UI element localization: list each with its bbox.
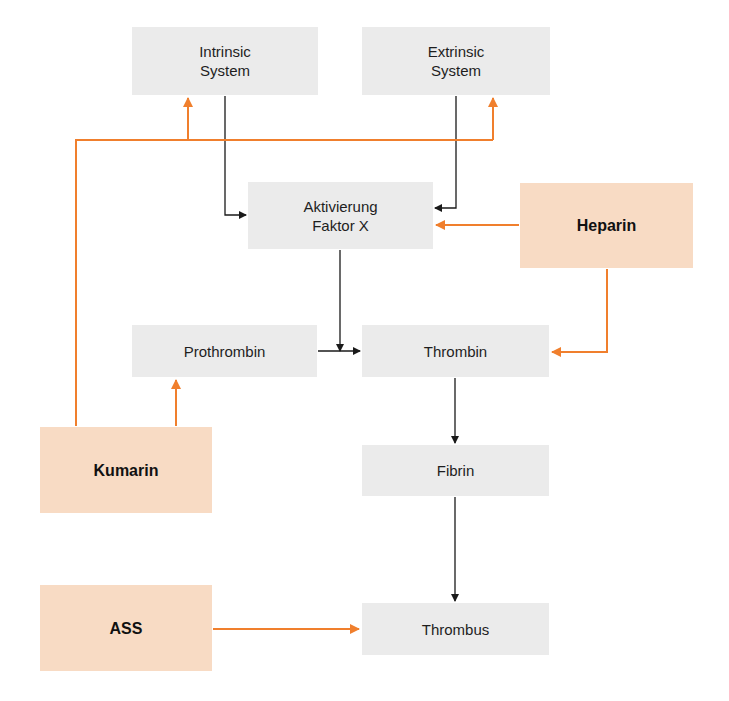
- node-label: Kumarin: [94, 461, 159, 480]
- node-label: ASS: [110, 619, 143, 638]
- node-fibrin: Fibrin: [362, 445, 549, 496]
- node-label: Prothrombin: [184, 342, 266, 361]
- node-ass: ASS: [40, 585, 212, 671]
- node-label: Intrinsic System: [199, 42, 251, 80]
- node-heparin: Heparin: [520, 183, 693, 268]
- edge-extrinsic-faktor-x: [435, 96, 456, 208]
- node-label: Aktivierung Faktor X: [303, 197, 377, 235]
- node-prothrombin: Prothrombin: [132, 325, 317, 377]
- node-label: Extrinsic System: [428, 42, 485, 80]
- node-thrombus: Thrombus: [362, 603, 549, 655]
- node-label: Heparin: [577, 216, 637, 235]
- node-kumarin: Kumarin: [40, 427, 212, 513]
- node-label: Fibrin: [437, 461, 475, 480]
- node-extrinsic-system: Extrinsic System: [362, 27, 550, 95]
- edge-heparin-thrombin: [552, 269, 607, 352]
- node-label: Thrombin: [424, 342, 487, 361]
- node-label: Thrombus: [422, 620, 490, 639]
- node-thrombin: Thrombin: [362, 325, 549, 377]
- node-faktor-x: Aktivierung Faktor X: [248, 182, 433, 249]
- edge-intrinsic-faktor-x: [225, 96, 246, 215]
- node-intrinsic-system: Intrinsic System: [132, 27, 318, 95]
